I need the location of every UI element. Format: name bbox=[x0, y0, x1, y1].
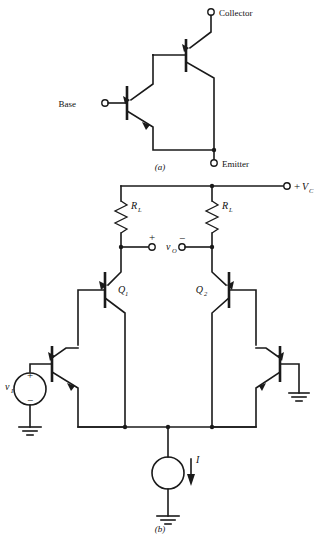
output-plus-terminal-icon bbox=[149, 244, 155, 250]
emitter-terminal-icon bbox=[211, 160, 217, 166]
circuit-figure: Collector Base Emitter (a) bbox=[0, 0, 319, 537]
resistor-right-label: R bbox=[221, 200, 228, 211]
collector-lead-wire bbox=[190, 16, 211, 49]
right-input-emitter-wire bbox=[212, 372, 280, 427]
resistor-left-label-sub: L bbox=[137, 206, 142, 213]
panel-b: + V C R L R L + v O − Q 1 bbox=[5, 180, 314, 534]
transistor-lower-emitter-wire bbox=[127, 111, 214, 150]
q2-base-wire bbox=[229, 290, 256, 345]
q1-emitter-wire bbox=[105, 298, 125, 427]
left-input-base-wire bbox=[30, 364, 52, 372]
q1-base-wire bbox=[78, 290, 105, 345]
upper-base-to-lower-collector-wire bbox=[131, 55, 153, 100]
caption-b: (b) bbox=[155, 524, 166, 534]
base-label: Base bbox=[59, 99, 77, 109]
tail-node-dot-right bbox=[210, 425, 214, 429]
output-plus-sign: + bbox=[149, 231, 155, 243]
ground-right-icon bbox=[289, 393, 309, 401]
collector-label: Collector bbox=[219, 8, 253, 18]
resistor-right-zigzag-icon bbox=[206, 201, 218, 233]
panel-a: Collector Base Emitter (a) bbox=[59, 8, 253, 173]
source-label: v bbox=[5, 381, 10, 392]
q1-label-sub: 1 bbox=[125, 290, 128, 297]
source-plus-sign: + bbox=[27, 369, 33, 381]
current-arrow-head-icon bbox=[187, 474, 195, 486]
collector-terminal-icon bbox=[208, 9, 214, 15]
current-source-icon bbox=[152, 457, 184, 489]
output-label-sub: O bbox=[172, 247, 177, 254]
emitter-label: Emitter bbox=[222, 159, 249, 169]
supply-label-sub: C bbox=[309, 187, 314, 194]
supply-terminal-icon bbox=[284, 183, 290, 189]
q2-collector-wire bbox=[212, 247, 226, 285]
resistor-right-label-sub: L bbox=[228, 206, 233, 213]
ground-tail-icon bbox=[157, 516, 179, 524]
q2-label: Q bbox=[196, 284, 204, 295]
supply-sign: + bbox=[294, 180, 300, 192]
right-input-base-wire bbox=[280, 364, 299, 393]
ground-left-icon bbox=[19, 427, 41, 435]
output-label: v bbox=[166, 241, 171, 252]
current-label: I bbox=[195, 454, 200, 465]
caption-a: (a) bbox=[155, 162, 166, 172]
q1-collector-wire bbox=[108, 247, 121, 285]
left-input-collector-wire bbox=[52, 348, 78, 358]
resistor-left-zigzag-icon bbox=[115, 201, 127, 233]
right-input-collector-wire bbox=[256, 348, 280, 358]
q2-emitter-wire bbox=[212, 298, 229, 427]
left-input-emitter-wire bbox=[52, 372, 125, 427]
q2-label-sub: 2 bbox=[204, 290, 208, 297]
resistor-left-label: R bbox=[130, 200, 137, 211]
output-minus-sign: − bbox=[179, 232, 185, 244]
transistor-upper-emitter-wire bbox=[186, 62, 214, 150]
tail-node-dot-left bbox=[123, 425, 127, 429]
